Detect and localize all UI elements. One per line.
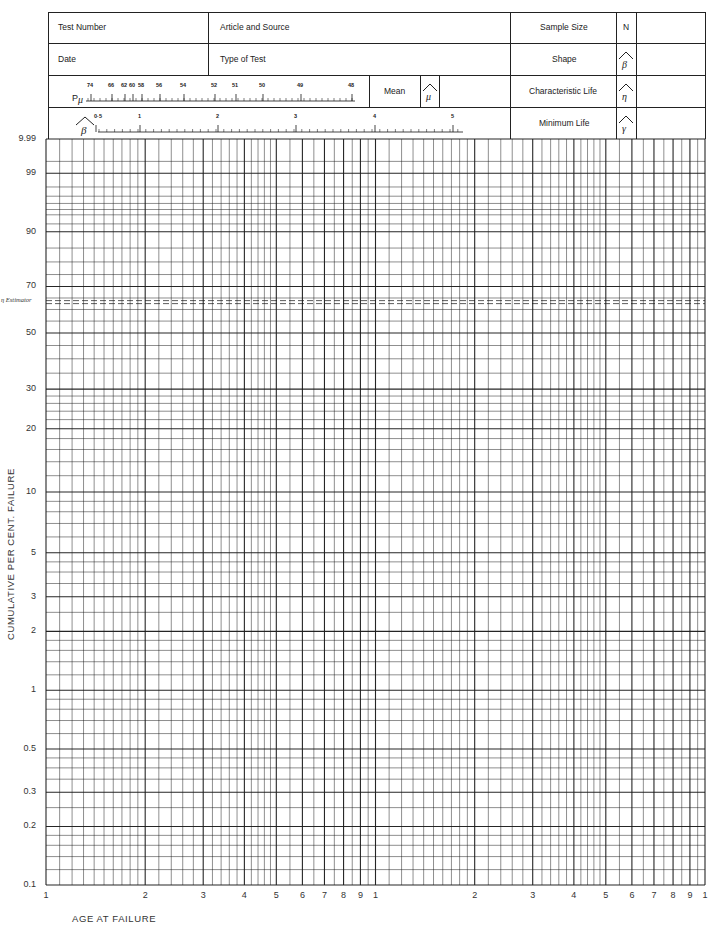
p-mu-tick-label: 52 [211, 82, 217, 88]
y-tick-label: 1 [2, 684, 36, 694]
y-tick-label: 20 [2, 423, 36, 433]
y-tick-label: 30 [2, 383, 36, 393]
y-tick-label: 9.99 [2, 133, 36, 143]
x-tick-label: 5 [599, 890, 613, 900]
y-axis-title: CUMULATIVE PER CENT. FAILURE [5, 468, 16, 640]
x-tick-label: 1 [698, 890, 712, 900]
beta-tick-label: 0·5 [94, 113, 102, 119]
x-tick-label: 2 [138, 890, 152, 900]
x-tick-label: 6 [625, 890, 639, 900]
x-tick-label: 7 [647, 890, 661, 900]
weibull-grid [0, 0, 713, 928]
p-mu-tick-label: 58 [138, 82, 144, 88]
y-tick-label: 90 [2, 226, 36, 236]
x-axis-title: AGE AT FAILURE [72, 913, 156, 924]
x-tick-label: 7 [317, 890, 331, 900]
x-tick-label: 2 [468, 890, 482, 900]
x-tick-label: 6 [295, 890, 309, 900]
x-tick-label: 8 [337, 890, 351, 900]
y-tick-label: 99 [2, 167, 36, 177]
eta-estimator-label: η Estimator [1, 296, 32, 303]
p-mu-tick-label: 54 [180, 82, 186, 88]
x-tick-label: 1 [369, 890, 383, 900]
x-tick-label: 8 [666, 890, 680, 900]
beta-tick-label: 3 [294, 113, 297, 119]
p-mu-tick-label: 49 [297, 82, 303, 88]
y-tick-label: 0.5 [2, 743, 36, 753]
p-mu-tick-label: 48 [348, 82, 354, 88]
p-mu-tick-label: 66 [108, 82, 114, 88]
p-mu-tick-label: 51 [232, 82, 238, 88]
y-tick-label: 50 [2, 327, 36, 337]
x-tick-label: 5 [269, 890, 283, 900]
p-mu-tick-label: 50 [259, 82, 265, 88]
p-mu-tick-label: 74 [87, 82, 93, 88]
x-tick-label: 3 [526, 890, 540, 900]
beta-tick-label: 1 [138, 113, 141, 119]
beta-tick-label: 2 [216, 113, 219, 119]
x-tick-label: 9 [353, 890, 367, 900]
x-tick-label: 4 [237, 890, 251, 900]
p-mu-tick-label: 60 [129, 82, 135, 88]
y-tick-label: 0.2 [2, 820, 36, 830]
p-mu-tick-label: 56 [156, 82, 162, 88]
y-tick-label: 0.3 [2, 786, 36, 796]
x-tick-label: 9 [683, 890, 697, 900]
p-mu-tick-label: 62 [121, 82, 127, 88]
x-tick-label: 1 [39, 890, 53, 900]
y-tick-label: 70 [2, 280, 36, 290]
x-tick-label: 3 [196, 890, 210, 900]
x-tick-label: 4 [567, 890, 581, 900]
beta-tick-label: 5 [451, 113, 454, 119]
y-tick-label: 0.1 [2, 879, 36, 889]
beta-tick-label: 4 [373, 113, 376, 119]
